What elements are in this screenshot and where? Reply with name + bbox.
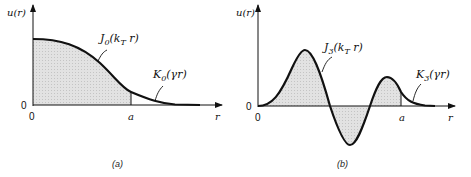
origin-x-label: 0 (29, 111, 35, 122)
inner-function-label: J3(kT r) (322, 41, 363, 56)
outer-function-label: K0(γr) (152, 68, 187, 83)
caption-b: (b) (337, 159, 348, 169)
k-leader (155, 86, 163, 101)
panel-b: u(r) 0 0 a r J3(kT r) K3(γr) (b) (236, 5, 455, 169)
origin-y-label: 0 (246, 101, 252, 112)
boundary-label: a (128, 111, 134, 122)
x-axis-label: r (448, 112, 454, 123)
j-leader (322, 57, 332, 72)
origin-x-label: 0 (255, 112, 261, 123)
y-axis-label: u(r) (7, 7, 26, 18)
core-shaded-area (258, 50, 330, 106)
caption-a: (a) (112, 159, 123, 169)
inner-function-label: J0(kT r) (98, 32, 139, 47)
panel-a: u(r) 0 0 a r J0(kT r) K0(γr) (a) (7, 5, 222, 169)
k-leader (413, 84, 421, 101)
j-leader (98, 50, 107, 61)
mode-profile-figure: u(r) 0 0 a r J0(kT r) K0(γr) (a) u(r) 0 … (0, 0, 471, 177)
x-axis-label: r (215, 111, 221, 122)
origin-y-label: 0 (21, 100, 27, 111)
y-axis-label: u(r) (236, 7, 255, 18)
boundary-label: a (399, 112, 405, 123)
outer-function-label: K3(γr) (415, 68, 450, 83)
